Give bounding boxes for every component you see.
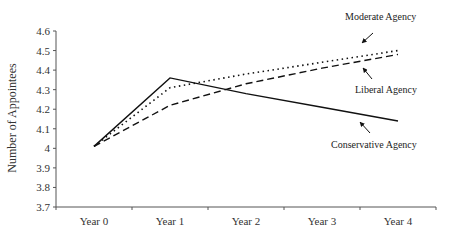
y-tick-label: 4.3: [36, 84, 50, 96]
line-chart: 3.73.83.944.14.24.34.44.54.6 Year 0Year …: [0, 0, 456, 242]
arrow-icon: [363, 68, 372, 79]
y-tick-label: 4.2: [36, 103, 50, 115]
annotations: Moderate AgencyLiberal AgencyConservativ…: [331, 11, 417, 150]
annotation-label: Conservative Agency: [331, 139, 417, 150]
x-tick-label: Year 0: [80, 215, 109, 227]
x-tick-label: Year 1: [156, 215, 185, 227]
y-tick-label: 4.5: [36, 45, 50, 57]
y-tick-label: 4: [45, 142, 51, 154]
x-tick-label: Year 2: [232, 215, 261, 227]
y-axis-title: Number of Appointees: [5, 63, 19, 173]
x-tick-label: Year 3: [308, 215, 337, 227]
x-tick-label: Year 4: [384, 215, 413, 227]
y-tick-label: 3.9: [36, 162, 50, 174]
series-line-liberal-agency: [94, 54, 398, 146]
arrow-icon: [360, 122, 370, 133]
series-lines: [94, 51, 398, 147]
series-line-conservative-agency: [94, 78, 398, 146]
series-line-moderate-agency: [94, 51, 398, 147]
y-tick-label: 4.6: [36, 25, 50, 37]
annotation-label: Liberal Agency: [355, 84, 417, 95]
y-tick-label: 4.4: [36, 64, 50, 76]
arrow-icon: [362, 33, 373, 43]
annotation-label: Moderate Agency: [345, 11, 416, 22]
y-axis: 3.73.83.944.14.24.34.44.54.6: [36, 25, 56, 213]
y-tick-label: 4.1: [36, 123, 50, 135]
y-tick-label: 3.8: [36, 181, 50, 193]
x-axis: Year 0Year 1Year 2Year 3Year 4: [56, 207, 436, 227]
y-tick-label: 3.7: [36, 201, 50, 213]
